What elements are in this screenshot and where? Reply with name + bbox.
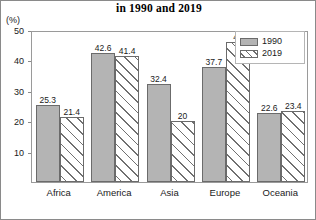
- x-axis-label-africa: Africa: [31, 187, 86, 198]
- x-axis-label-oceania: Oceania: [253, 187, 308, 198]
- chart-figure: in 1990 and 2019 (%) 1020304050 25.321.4…: [0, 0, 316, 220]
- y-axis-unit-label: (%): [6, 15, 20, 25]
- legend-label-1990: 1990: [262, 37, 282, 46]
- legend-item-1990: 1990: [240, 36, 302, 47]
- bar-africa-2019: 21.4: [60, 117, 84, 182]
- bar-value-label: 23.4: [285, 101, 302, 111]
- bar-value-label: 25.3: [39, 95, 56, 105]
- bar-value-label: 37.7: [206, 57, 223, 67]
- x-axis-label-america: America: [86, 187, 141, 198]
- bar-value-label: 42.6: [95, 43, 112, 53]
- bar-value-label: 21.4: [63, 107, 80, 117]
- x-axis-label-europe: Europe: [197, 187, 252, 198]
- legend-label-2019: 2019: [262, 49, 282, 58]
- legend-item-2019: 2019: [240, 48, 302, 59]
- bar-value-label: 41.4: [119, 46, 136, 56]
- legend-swatch-1990-icon: [240, 38, 258, 46]
- bar-asia-1990: 32.4: [147, 84, 171, 182]
- bar-asia-2019: 20: [171, 121, 195, 182]
- x-axis-label-asia: Asia: [142, 187, 197, 198]
- chart-legend: 1990 2019: [235, 31, 305, 64]
- bar-value-label: 22.6: [261, 103, 278, 113]
- bar-value-label: 32.4: [150, 74, 167, 84]
- chart-title: in 1990 and 2019: [1, 2, 316, 14]
- bar-america-2019: 41.4: [115, 56, 139, 182]
- y-axis-tick-label: 10: [0, 148, 24, 158]
- bar-america-1990: 42.6: [91, 53, 115, 183]
- y-axis-tick-label: 20: [0, 117, 24, 127]
- legend-swatch-2019-icon: [240, 50, 258, 58]
- bar-oceania-2019: 23.4: [281, 111, 305, 182]
- bar-europe-1990: 37.7: [202, 67, 226, 182]
- bar-oceania-1990: 22.6: [257, 113, 281, 182]
- y-axis-tick-label: 30: [0, 87, 24, 97]
- y-axis-tick-label: 50: [0, 26, 24, 36]
- bar-value-label: 20: [178, 111, 187, 121]
- bar-africa-1990: 25.3: [36, 105, 60, 182]
- y-axis-tick-label: 40: [0, 56, 24, 66]
